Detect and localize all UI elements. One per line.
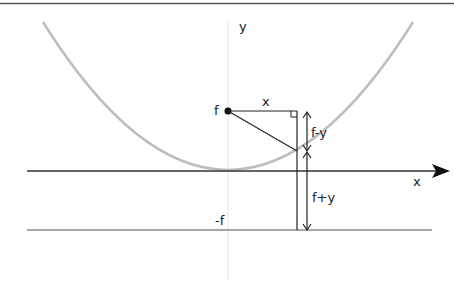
- focus-to-point-line: [228, 111, 297, 151]
- y-axis-label: y: [239, 19, 247, 34]
- horizontal-distance-label: x: [262, 94, 270, 109]
- right-angle-marker: [291, 111, 297, 117]
- x-axis-label: x: [413, 174, 421, 189]
- f-plus-y-label: f+y: [312, 190, 335, 205]
- f-minus-y-label: f-y: [311, 125, 327, 140]
- focus-label: f: [214, 103, 219, 118]
- directrix-label: -f: [215, 213, 225, 228]
- parabola-diagram: y x f x f-y f+y -f: [0, 0, 454, 294]
